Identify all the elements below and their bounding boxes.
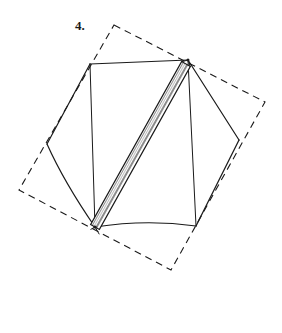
hexagon-edge-upper-right bbox=[188, 60, 239, 140]
geometric-figure bbox=[0, 0, 282, 333]
vertex-top-right-accent bbox=[187, 59, 190, 62]
hexagon-edge-lower-left bbox=[47, 144, 95, 227]
lower-left-spur-line bbox=[90, 64, 95, 227]
upper-right-spur-line bbox=[188, 60, 196, 226]
figure-number-label: 4. bbox=[75, 19, 85, 32]
figure-canvas: 4. bbox=[0, 0, 282, 333]
vertex-bottom-left-accent bbox=[93, 225, 96, 228]
hexagon-edge-top bbox=[90, 60, 188, 64]
hexagon-edge-upper-left bbox=[47, 64, 90, 144]
hexagon-edge-lower-right bbox=[196, 140, 239, 226]
hexagon-edge-bottom bbox=[95, 223, 196, 227]
